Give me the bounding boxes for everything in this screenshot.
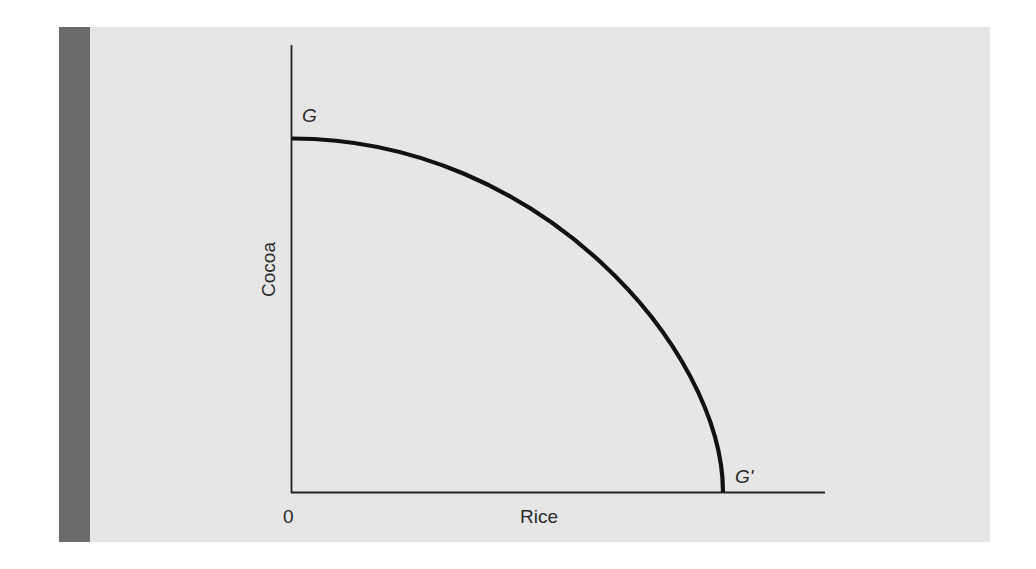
- ppf-curve: [292, 139, 723, 493]
- origin-label: 0: [283, 507, 294, 526]
- x-axis-label: Rice: [520, 507, 558, 526]
- point-g-label: G: [302, 106, 317, 125]
- y-axis-label: Cocoa: [259, 240, 278, 300]
- ppf-chart: [0, 0, 1036, 569]
- point-g-prime-label: G': [735, 467, 753, 486]
